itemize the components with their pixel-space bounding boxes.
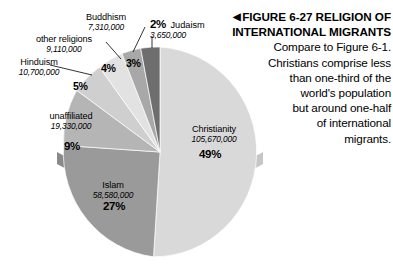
slice-percent-christianity: 49% xyxy=(199,148,221,160)
figure-caption-body-line: Compare to Figure 6-1. xyxy=(200,39,391,54)
slice-percent-islam: 27% xyxy=(103,200,125,212)
figure-caption-body-line: Christians comprise less xyxy=(200,55,391,70)
figure-caption-heading: ◀FIGURE 6-27 RELIGION OF INTERNATIONAL M… xyxy=(200,9,391,39)
figure-caption: ◀FIGURE 6-27 RELIGION OF INTERNATIONAL M… xyxy=(200,9,391,146)
figure-caption-body-line: but around one-half xyxy=(200,100,391,115)
slice-label-buddhism: Buddhism 7,310,000 xyxy=(69,13,143,32)
slice-percent-other-religions: 4% xyxy=(101,62,116,74)
figure-caption-heading-line2: INTERNATIONAL MIGRANTS xyxy=(232,25,391,38)
slice-percent-hinduism: 5% xyxy=(73,80,88,92)
left-triangle-icon: ◀ xyxy=(233,11,241,22)
slice-label-judaism-row: 2% Judaism xyxy=(150,14,205,31)
figure-caption-body: Compare to Figure 6-1. Christians compri… xyxy=(200,39,391,145)
figure-caption-heading-line1: FIGURE 6-27 RELIGION OF xyxy=(242,10,391,23)
slice-percent-judaism: 2% xyxy=(150,18,166,30)
slice-percent-buddhism: 3% xyxy=(126,57,141,69)
slice-label-islam-value: 58,580,000 xyxy=(75,191,151,200)
figure-caption-body-line: than one-third of the xyxy=(200,70,391,85)
slice-label-judaism: 2% Judaism 3,650,000 xyxy=(150,14,205,40)
slice-label-other-religions: other religions 9,110,000 xyxy=(18,35,110,54)
slice-label-unaffiliated: unaffiliated 19,330,000 xyxy=(31,112,111,131)
slice-label-buddhism-value: 7,310,000 xyxy=(69,23,143,32)
slice-label-unaffiliated-value: 19,330,000 xyxy=(31,122,111,131)
slice-label-judaism-value: 3,650,000 xyxy=(150,31,205,40)
slice-label-hinduism-value: 10,700,000 xyxy=(2,68,76,77)
slice-label-other-religions-value: 9,110,000 xyxy=(18,45,110,54)
slice-label-islam: Islam 58,580,000 xyxy=(75,181,151,200)
slice-label-hinduism: Hinduism 10,700,000 xyxy=(2,58,76,77)
slice-percent-unaffiliated: 9% xyxy=(64,140,80,152)
figure-caption-body-line: migrants. xyxy=(200,131,391,146)
figure-caption-body-line: of international xyxy=(200,115,391,130)
figure-caption-body-line: world's population xyxy=(200,85,391,100)
figure-religion-of-international-migrants: Buddhism 7,310,000 3% 2% Judaism 3,650,0… xyxy=(0,0,393,280)
